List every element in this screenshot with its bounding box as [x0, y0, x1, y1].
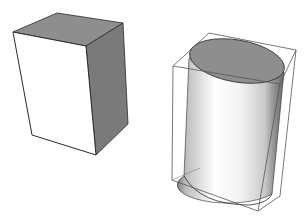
- box-front-face: [13, 32, 96, 155]
- rectangular-box: [13, 13, 128, 155]
- cylinder-in-bounding-box: [172, 32, 296, 211]
- shapes-diagram: [0, 0, 307, 221]
